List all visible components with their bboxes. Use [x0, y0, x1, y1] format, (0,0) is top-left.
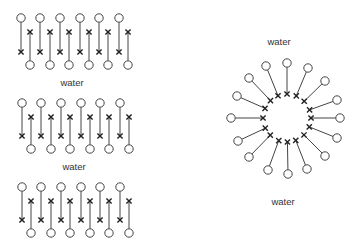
hydrophilic-head-icon: [18, 183, 26, 191]
amphiphile-molecule: [36, 14, 44, 55]
hydrophilic-head-icon: [27, 145, 35, 153]
hydrophobic-tail-icon: [268, 98, 273, 103]
hydrophilic-head-icon: [47, 145, 55, 153]
hydrophobic-tail-icon: [307, 124, 312, 129]
amphiphile-molecule: [125, 114, 133, 153]
amphiphile-molecule: [116, 99, 124, 139]
amphiphile-molecule: [65, 29, 73, 69]
amphiphile-molecule: [46, 29, 54, 69]
hydrophilic-head-icon: [116, 183, 124, 191]
hydrophilic-head-icon: [86, 145, 94, 153]
micelle-amphiphile: [283, 59, 291, 97]
amphiphile-molecule: [85, 29, 93, 69]
amphiphile-molecule: [104, 29, 112, 69]
amphiphile-molecule: [18, 99, 26, 139]
micelle-water-label-bottom: water: [270, 196, 294, 207]
hydrophilic-head-icon: [104, 61, 112, 69]
hydrophilic-head-icon: [115, 14, 123, 22]
hydrophilic-head-icon: [105, 145, 113, 153]
amphiphile-molecule: [18, 183, 26, 223]
amphiphile-molecule: [124, 29, 132, 69]
hydrophilic-head-icon: [245, 153, 253, 161]
hydrophilic-head-icon: [304, 64, 312, 72]
micelle-amphiphile: [245, 133, 273, 162]
amphiphile-molecule: [47, 198, 55, 237]
water-label-1: water: [59, 77, 83, 88]
hydrophilic-head-icon: [36, 14, 44, 22]
bilayer-block-2: [18, 99, 133, 153]
amphiphile-molecule: [57, 99, 65, 139]
hydrophilic-head-icon: [105, 229, 113, 237]
hydrophobic-tail-icon: [268, 133, 273, 138]
micelle-amphiphile: [301, 132, 329, 160]
hydrophilic-head-icon: [124, 61, 132, 69]
hydrophobic-tail-icon: [276, 138, 281, 143]
micelle-amphiphile: [308, 114, 344, 122]
hydrophilic-head-icon: [95, 14, 103, 22]
amphiphile-molecule: [57, 183, 65, 223]
hydrophilic-head-icon: [65, 61, 73, 69]
amphiphile-molecule: [96, 99, 104, 139]
hydrophilic-head-icon: [116, 99, 124, 107]
micelle-amphiphile: [302, 77, 330, 104]
hydrophilic-head-icon: [77, 183, 85, 191]
hydrophilic-head-icon: [26, 61, 34, 69]
hydrophilic-head-icon: [37, 99, 45, 107]
amphiphile-molecule: [115, 14, 123, 55]
hydrophilic-head-icon: [47, 229, 55, 237]
hydrophobic-tail-icon: [293, 138, 298, 143]
micelle-amphiphile: [264, 138, 282, 174]
hydrophilic-head-icon: [227, 114, 235, 122]
hydrophilic-head-icon: [96, 99, 104, 107]
micelle-amphiphile: [262, 62, 281, 99]
hydrophilic-head-icon: [57, 99, 65, 107]
hydrophilic-head-icon: [85, 61, 93, 69]
hydrophilic-head-icon: [37, 183, 45, 191]
amphiphile-molecule: [86, 198, 94, 237]
micelle-amphiphile: [233, 92, 268, 111]
hydrophilic-head-icon: [333, 134, 341, 142]
micelle-amphiphile: [294, 64, 313, 99]
hydrophilic-head-icon: [86, 229, 94, 237]
hydrophilic-head-icon: [18, 99, 26, 107]
hydrophilic-head-icon: [57, 183, 65, 191]
micelle-amphiphile: [293, 138, 311, 173]
amphiphile-molecule: [105, 114, 113, 153]
hydrophilic-head-icon: [262, 62, 270, 70]
hydrophilic-head-icon: [17, 14, 25, 22]
hydrophobic-tail-icon: [263, 126, 268, 131]
hydrophilic-head-icon: [336, 114, 344, 122]
micelle-water-label-top: water: [266, 36, 290, 47]
hydrophilic-head-icon: [321, 77, 329, 85]
hydrophobic-tail-icon: [275, 93, 280, 98]
hydrophilic-head-icon: [66, 145, 74, 153]
hydrophobic-tail-icon: [302, 99, 307, 104]
hydrophilic-head-icon: [283, 59, 291, 67]
hydrophobic-tail-icon: [307, 107, 312, 112]
amphiphile-molecule: [76, 14, 84, 55]
amphiphile-molecule: [86, 114, 94, 153]
hydrophilic-head-icon: [27, 229, 35, 237]
hydrophilic-head-icon: [125, 229, 133, 237]
lamellar-bilayer-stack: [17, 14, 133, 237]
amphiphile-molecule: [27, 114, 35, 153]
amphiphile-molecule: [116, 183, 124, 223]
amphiphile-molecule: [125, 198, 133, 237]
amphiphile-molecule: [56, 14, 64, 55]
bilayer-block-1: [17, 14, 132, 69]
amphiphile-molecule: [37, 99, 45, 139]
hydrophilic-head-icon: [264, 166, 272, 174]
hydrophilic-head-icon: [284, 170, 292, 178]
micelle-amphiphile: [307, 96, 341, 113]
amphiphile-molecule: [37, 183, 45, 223]
hydrophilic-head-icon: [66, 229, 74, 237]
micelle-amphiphile: [307, 124, 342, 142]
hydrophilic-head-icon: [234, 137, 242, 145]
hydrophilic-head-icon: [96, 183, 104, 191]
hydrophobic-tail-icon: [301, 132, 306, 137]
hydrophilic-head-icon: [77, 99, 85, 107]
micelle-amphiphile: [227, 114, 266, 122]
hydrophilic-head-icon: [233, 92, 241, 100]
amphiphile-molecule: [66, 114, 74, 153]
hydrophilic-head-icon: [46, 61, 54, 69]
